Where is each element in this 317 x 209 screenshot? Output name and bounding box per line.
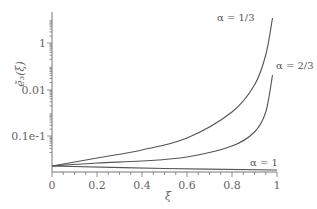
x-tick-label-0.2: 0.2: [88, 179, 106, 192]
y-axis-ticks: [47, 21, 52, 153]
x-tick-label-0.6: 0.6: [178, 179, 196, 192]
y-axis-title: ẽ₃(ξ): [14, 61, 27, 87]
x-tick-label-0.4: 0.4: [133, 179, 151, 192]
y-tick-label-0.1e-1: 0.1e-1: [11, 130, 46, 143]
annotation-alpha-1: α = 1: [250, 157, 278, 168]
curve-alpha-1: [52, 166, 277, 170]
x-tick-label-1: 1: [274, 179, 281, 192]
curve-alpha-1-3: [52, 18, 273, 166]
y-tick-label-1: 1: [39, 37, 46, 50]
x-tick-label-0: 0: [49, 179, 56, 192]
annotation-alpha-1-3: α = 1/3: [217, 12, 255, 23]
curve-alpha-2-3: [52, 75, 273, 166]
chart: 1 0.01 0.1e-1 0 0.2 0.4 0.6 0.8 1 ξ ẽ₃(ξ…: [0, 0, 317, 209]
annotation-alpha-2-3: α = 2/3: [276, 60, 314, 71]
x-axis-title: ξ: [165, 190, 172, 203]
x-tick-label-0.8: 0.8: [223, 179, 241, 192]
x-axis-ticks: [52, 172, 277, 177]
